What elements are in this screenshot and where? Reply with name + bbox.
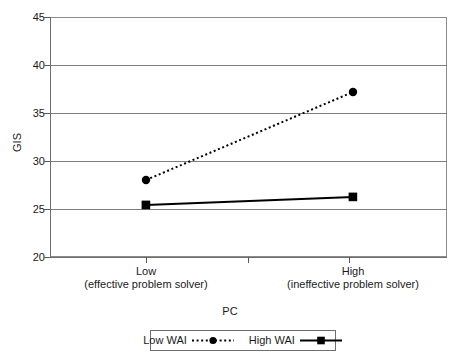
x-axis-title: PC [0, 305, 460, 317]
legend-swatch-high-wai-icon [299, 335, 343, 346]
legend-swatch-low-wai-icon [191, 335, 235, 346]
x-category-label-high: High (ineffective problem solver) [253, 265, 453, 291]
x-category-label-low: Low (effective problem solver) [46, 265, 246, 291]
data-point-low-wai-low-pc [142, 176, 150, 184]
chart-canvas: 45 40 35 30 25 20 GIS Low (effective pro… [0, 0, 460, 360]
x-category-label-high-line1: High [253, 265, 453, 278]
legend-label-high-wai: High WAI [249, 335, 295, 346]
legend-label-low-wai: Low WAI [143, 335, 187, 346]
series-line-high-wai [146, 197, 353, 205]
data-point-high-wai-low-pc [142, 201, 151, 210]
x-category-label-low-line1: Low [46, 265, 246, 278]
chart-legend: Low WAI High WAI [150, 330, 336, 351]
x-category-label-low-line2: (effective problem solver) [46, 278, 246, 291]
legend-entry-low-wai: Low WAI [143, 335, 235, 346]
x-category-label-high-line2: (ineffective problem solver) [253, 278, 453, 291]
data-point-high-wai-high-pc [349, 193, 358, 202]
legend-entry-high-wai: High WAI [249, 335, 343, 346]
data-point-low-wai-high-pc [349, 88, 357, 96]
series-line-low-wai [146, 92, 353, 180]
